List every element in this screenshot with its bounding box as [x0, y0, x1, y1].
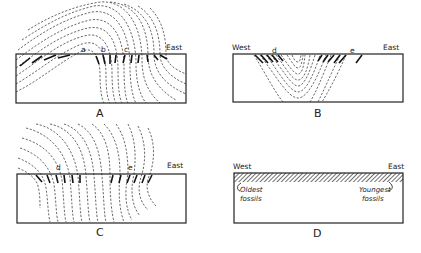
west-label-b: West — [232, 43, 250, 52]
panel-d: West East Oldest fossils Youngest fossil… — [233, 162, 404, 240]
geology-diagram: a b c East A — [0, 0, 421, 253]
east-label-b: East — [383, 43, 399, 52]
panel-label-c: C — [96, 226, 104, 239]
oldest-label-2: fossils — [240, 195, 262, 203]
east-label-a: East — [166, 43, 182, 52]
panel-b-contours — [254, 55, 362, 102]
panel-label-a: A — [96, 107, 104, 120]
panel-c: d e East C — [17, 124, 186, 239]
point-label-d-b: d — [272, 46, 277, 55]
panel-a-box — [16, 54, 186, 103]
point-label-e-b: e — [350, 46, 355, 55]
point-label-d-c: d — [56, 163, 61, 172]
oldest-label-1: Oldest — [240, 186, 263, 194]
point-label-b: b — [101, 45, 106, 54]
west-label-d: West — [233, 162, 251, 171]
panel-c-contours — [18, 124, 156, 222]
point-label-e-c: e — [128, 163, 133, 172]
panel-b: West East d e B — [232, 43, 403, 120]
point-label-c: c — [124, 45, 128, 54]
panel-a: a b c East A — [16, 2, 186, 120]
east-label-d: East — [388, 162, 404, 171]
fossil-bed-hatch — [234, 173, 403, 182]
youngest-label-1: Youngest — [359, 186, 391, 194]
panel-label-b: B — [314, 107, 322, 120]
point-label-a: a — [81, 45, 86, 54]
youngest-label-2: fossils — [362, 195, 384, 203]
east-label-c: East — [167, 161, 183, 170]
panel-label-d: D — [313, 227, 321, 240]
